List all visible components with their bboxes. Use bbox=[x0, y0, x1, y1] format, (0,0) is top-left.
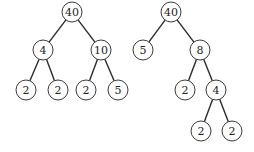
right-tree-node: 2 bbox=[222, 121, 242, 141]
right-tree-node: 5 bbox=[133, 40, 153, 60]
right-tree-node: 40 bbox=[161, 2, 181, 22]
left-tree-edge bbox=[78, 20, 95, 42]
left-tree-edge bbox=[105, 59, 114, 81]
node-label: 2 bbox=[83, 84, 90, 97]
node-label: 4 bbox=[40, 44, 47, 57]
right-tree-edge bbox=[204, 99, 212, 121]
right-tree-edge bbox=[149, 20, 165, 42]
tree-diagram: 40410222540582422 bbox=[0, 0, 254, 152]
right-tree-edge bbox=[177, 20, 194, 42]
right-tree-node: 8 bbox=[190, 40, 210, 60]
left-tree-edge bbox=[90, 59, 98, 80]
node-label: 2 bbox=[23, 84, 30, 97]
right-tree-edge bbox=[189, 59, 197, 80]
left-tree-edge bbox=[30, 59, 39, 81]
left-tree-node: 4 bbox=[33, 40, 53, 60]
left-tree-node: 40 bbox=[62, 2, 82, 22]
node-label: 8 bbox=[197, 44, 204, 57]
left-tree-edge bbox=[47, 59, 55, 80]
left-tree-node: 10 bbox=[91, 40, 111, 60]
node-label: 2 bbox=[182, 84, 189, 97]
node-label: 40 bbox=[65, 6, 79, 19]
node-label: 40 bbox=[164, 6, 178, 19]
left-tree-node: 5 bbox=[108, 80, 128, 100]
left-tree-node: 2 bbox=[48, 80, 68, 100]
node-label: 2 bbox=[229, 125, 236, 138]
right-tree-node: 2 bbox=[191, 121, 211, 141]
node-label: 2 bbox=[198, 125, 205, 138]
right-tree-node: 2 bbox=[175, 80, 195, 100]
node-label: 5 bbox=[140, 44, 147, 57]
right-tree-edge bbox=[220, 99, 229, 121]
node-label: 2 bbox=[55, 84, 62, 97]
node-label: 5 bbox=[115, 84, 122, 97]
left-tree-node: 2 bbox=[76, 80, 96, 100]
right-tree-node: 4 bbox=[206, 80, 226, 100]
left-tree-node: 2 bbox=[16, 80, 36, 100]
edges-layer bbox=[30, 20, 228, 122]
left-tree-edge bbox=[49, 20, 66, 42]
right-tree-edge bbox=[204, 59, 213, 80]
node-label: 4 bbox=[213, 84, 220, 97]
node-label: 10 bbox=[94, 44, 108, 57]
